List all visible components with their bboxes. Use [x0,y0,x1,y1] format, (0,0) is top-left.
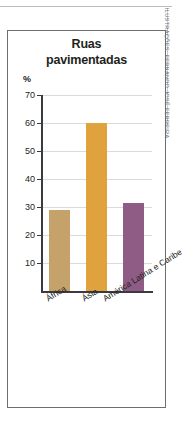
y-axis-tick-label: 70 [25,90,35,100]
chart-title-line-1: Ruas [7,36,166,52]
y-axis-tick-label: 60 [25,118,35,128]
y-axis-unit-label: % [23,74,31,84]
top-rule [0,6,172,7]
illustration-credit: ILUSTRAÇÕES: FERNANDO JOSÉ FERREIRA [164,8,170,138]
plot-area: 10203040506070 [41,95,152,291]
chart-title-line-2: pavimentadas [7,52,166,68]
y-axis-tick-label: 40 [25,174,35,184]
chart-title: Ruas pavimentadas [7,36,166,68]
y-axis-tick-label: 10 [25,258,35,268]
y-axis-tick-label: 20 [25,230,35,240]
y-axis-tick-label: 50 [25,146,35,156]
bar[interactable] [86,123,107,291]
bar[interactable] [49,210,70,291]
gridline [41,95,152,96]
y-axis-line [41,95,43,292]
y-axis-tick-label: 30 [25,202,35,212]
